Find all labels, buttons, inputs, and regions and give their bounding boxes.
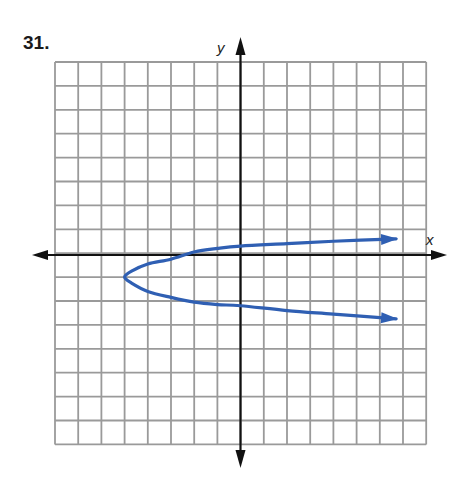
y-axis-up-arrow-icon <box>236 37 246 55</box>
y-axis-down-arrow-icon <box>236 450 246 468</box>
curve-arrow-upper-icon <box>381 234 398 245</box>
x-axis-left-arrow-icon <box>32 250 48 260</box>
x-axis-label: x <box>425 231 434 248</box>
parabola-curve <box>125 239 396 319</box>
y-axis-label: y <box>216 39 226 56</box>
x-axis-right-arrow-icon <box>431 250 447 260</box>
coordinate-plane: y x <box>0 0 470 488</box>
